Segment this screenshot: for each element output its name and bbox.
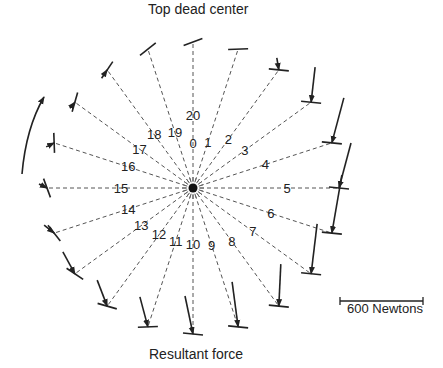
position-label-19: 19 bbox=[168, 125, 182, 140]
position-label-15: 15 bbox=[114, 181, 128, 196]
position-label-20: 20 bbox=[186, 108, 200, 123]
position-label-16: 16 bbox=[121, 159, 135, 174]
force-diagram: 02012345678910111213141516171819 bbox=[0, 0, 443, 368]
position-label-11: 11 bbox=[169, 234, 183, 249]
position-label-3: 3 bbox=[241, 143, 248, 158]
position-label-12: 12 bbox=[152, 227, 166, 242]
position-label-5: 5 bbox=[283, 181, 290, 196]
rotation-arrow-icon bbox=[22, 97, 44, 174]
position-label-18: 18 bbox=[147, 127, 161, 142]
position-label-13: 13 bbox=[134, 218, 148, 233]
position-label-4: 4 bbox=[262, 157, 269, 172]
position-label-9: 9 bbox=[208, 238, 215, 253]
position-label-2: 2 bbox=[225, 132, 232, 147]
position-labels: 02012345678910111213141516171819 bbox=[114, 108, 291, 253]
crank-center bbox=[182, 177, 204, 199]
scale-bar bbox=[340, 297, 423, 305]
position-label-7: 7 bbox=[249, 224, 256, 239]
position-label-8: 8 bbox=[228, 234, 235, 249]
force-arrows bbox=[39, 58, 351, 334]
position-label-0: 0 bbox=[189, 136, 196, 151]
position-label-14: 14 bbox=[121, 202, 135, 217]
position-label-17: 17 bbox=[132, 142, 146, 157]
position-label-10: 10 bbox=[186, 237, 200, 252]
position-label-1: 1 bbox=[204, 135, 211, 150]
position-label-6: 6 bbox=[267, 206, 274, 221]
